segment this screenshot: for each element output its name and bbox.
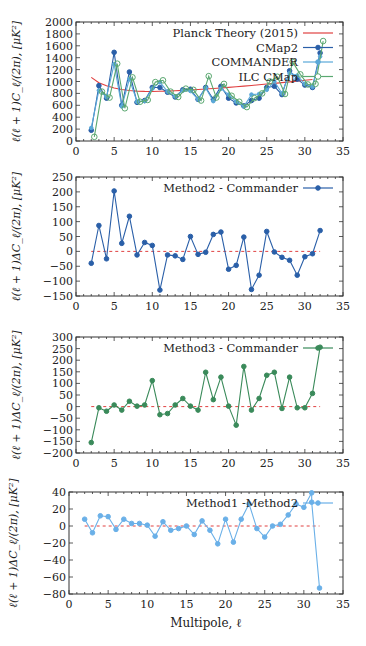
data-point [242,235,247,240]
y-tick-label: 800 [52,87,73,100]
data-point [158,85,163,90]
x-tick-label: 35 [336,598,350,611]
data-point [188,234,193,239]
data-point [150,378,155,383]
data-point [112,403,117,408]
y-axis-title: ℓ(ℓ + 1)ΔC_ℓ/(2π), [μK²] [10,330,23,460]
x-tick-label: 0 [73,145,80,158]
data-point [234,263,239,268]
data-point [264,229,269,234]
y-tick-label: −20 [43,537,66,550]
y-tick-label: 600 [52,99,73,112]
y-tick-label: 300 [52,331,73,344]
y-tick-label: 100 [52,377,73,390]
data-point [223,517,228,522]
y-tick-label: 250 [52,171,73,184]
y-tick-label: 40 [52,486,66,499]
data-point [137,521,142,526]
data-point [309,500,314,505]
data-point [158,288,163,293]
y-tick-label: 1200 [45,64,73,77]
data-point [303,405,308,410]
data-point [219,230,224,235]
y-tick-label: 200 [52,354,73,367]
data-point [234,423,239,428]
y-tick-label: −50 [50,260,73,273]
x-tick-label: 0 [66,598,73,611]
y-tick-label: −60 [43,571,66,584]
y-tick-label: 200 [52,123,73,136]
y-axis-title: ℓ(ℓ + 1)ΔC_ℓ/(2π), [μK²] [7,478,20,608]
legend: Planck Theory (2015)CMap2COMMANDERILC CM… [173,26,333,84]
x-axis-title: Multipole, ℓ [170,616,242,630]
y-tick-label: 20 [52,503,66,516]
data-point [318,228,323,233]
y-tick-label: 50 [59,231,73,244]
data-point [264,373,269,378]
y-tick-label: 50 [59,389,73,402]
data-point [196,252,201,257]
data-point [249,287,254,292]
data-point [196,408,201,413]
y-axis-title: ℓ(ℓ + 1)ΔC_ℓ/(2π), [μK²] [10,171,23,301]
y-tick-label: −150 [43,290,73,303]
data-point [310,251,315,256]
x-tick-label: 25 [260,457,274,470]
x-tick-label: 25 [260,300,274,313]
data-point [135,404,140,409]
data-point [192,532,197,537]
data-point [242,364,247,369]
data-point [89,440,94,445]
data-point [257,273,262,278]
data-point [145,523,150,528]
data-point [280,255,285,260]
chart-figure: 0510152025303502004006008001000120014001… [0,0,366,646]
data-point [208,528,213,533]
x-tick-label: 5 [111,457,118,470]
data-point [239,517,244,522]
x-tick-label: 10 [145,457,159,470]
y-tick-label: 1400 [45,52,73,65]
data-point [287,375,292,380]
data-point [278,522,283,527]
data-point [97,223,102,228]
x-tick-label: 15 [183,457,197,470]
data-point [272,250,277,255]
data-point [142,240,147,245]
data-point [112,50,117,55]
data-point [231,540,236,545]
data-point [181,257,186,262]
x-tick-label: 10 [140,598,154,611]
data-point [119,241,124,246]
data-point [272,370,277,375]
x-tick-label: 15 [183,300,197,313]
x-tick-label: 35 [336,457,350,470]
data-point [168,528,173,533]
data-point [203,250,208,255]
legend-label: Method3 - Commander [163,341,298,355]
data-point [287,258,292,263]
x-tick-label: 20 [222,145,236,158]
data-point [184,524,189,529]
legend: Method1 -Method2 [186,496,333,510]
data-point [173,254,178,259]
data-point [309,491,314,496]
y-tick-label: 1000 [45,76,73,89]
legend: Method3 - Commander [163,341,333,355]
y-tick-label: 200 [52,186,73,199]
data-point [119,408,124,413]
data-point [200,519,205,524]
data-point [302,505,307,510]
data-point [153,534,158,539]
y-axis-title: ℓ(ℓ + 1)C_ℓ/(2π), [μK²] [10,20,23,142]
y-tick-label: 0 [59,520,66,533]
data-point [122,517,127,522]
y-tick-label: 250 [52,343,73,356]
x-tick-label: 20 [222,457,236,470]
data-point [215,542,220,547]
data-point [106,514,111,519]
x-tick-label: 25 [260,145,274,158]
chart-panel-1: 0510152025303502004006008001000120014001… [10,16,350,158]
y-tick-label: −40 [43,554,66,567]
x-tick-label: 5 [111,300,118,313]
